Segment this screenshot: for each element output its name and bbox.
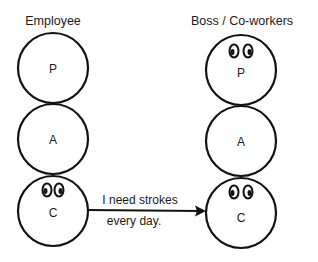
employee-parent-label: P bbox=[49, 62, 57, 76]
employee-title: Employee bbox=[25, 14, 81, 28]
ego-state-diagram: Employee Boss / Co-workers P A C P A C bbox=[0, 0, 318, 262]
boss-coworkers-ego-states: P A C bbox=[206, 35, 276, 248]
boss-adult-label: A bbox=[237, 135, 245, 149]
employee-ego-states: P A C bbox=[18, 33, 88, 246]
boss-parent-eyes-icon bbox=[230, 45, 253, 58]
employee-child-label: C bbox=[49, 206, 58, 220]
boss-parent-label: P bbox=[237, 66, 245, 80]
boss-child-label: C bbox=[237, 211, 246, 225]
employee-child-eyes-icon bbox=[43, 184, 64, 197]
boss-child-eyes-icon bbox=[230, 186, 253, 199]
boss-coworkers-title: Boss / Co-workers bbox=[191, 14, 293, 28]
employee-adult-label: A bbox=[49, 133, 57, 147]
transaction-text-line1: I need strokes bbox=[102, 193, 177, 207]
transaction-text-line2: every day. bbox=[107, 214, 161, 228]
